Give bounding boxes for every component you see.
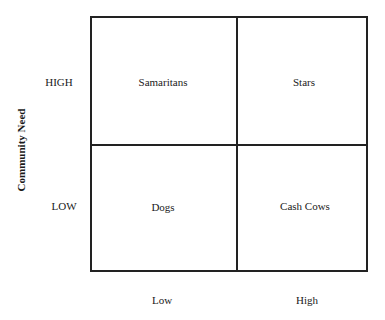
quadrant-dogs: Dogs <box>151 201 174 213</box>
col-label-low: Low <box>152 294 172 306</box>
horizontal-divider <box>92 144 366 146</box>
y-axis-title: Community Need <box>15 109 27 192</box>
quadrant-stars: Stars <box>293 76 315 88</box>
quadrant-samaritans: Samaritans <box>139 76 188 88</box>
col-label-high: High <box>296 294 318 306</box>
row-label-high: HIGH <box>45 76 73 88</box>
matrix-grid <box>90 16 368 272</box>
row-label-low: LOW <box>51 200 76 212</box>
quadrant-cash-cows: Cash Cows <box>280 200 330 212</box>
